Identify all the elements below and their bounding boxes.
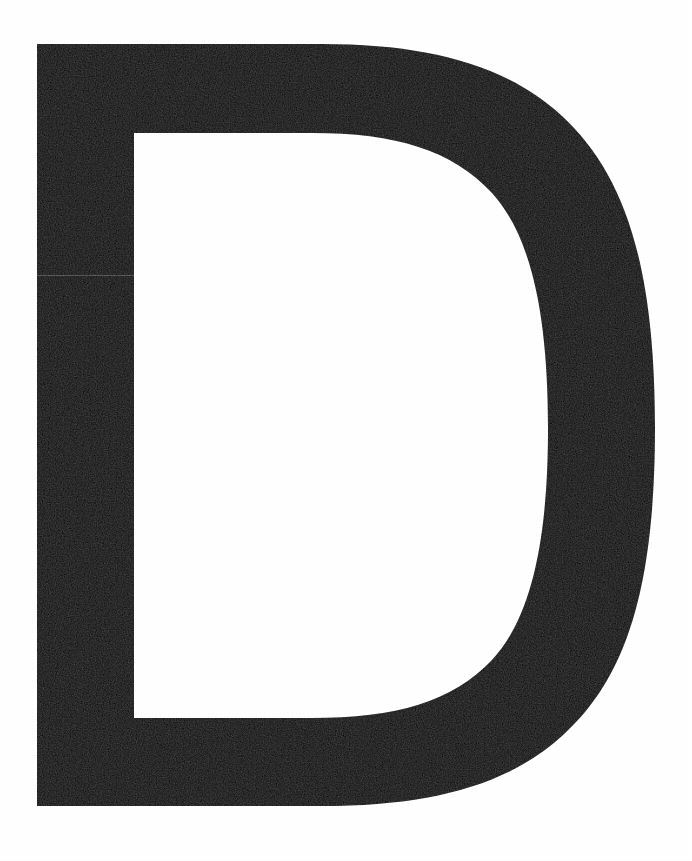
letter-d-glyph bbox=[0, 0, 692, 861]
specimen-sheet: D latin-capital-letter-d bbox=[0, 0, 692, 861]
